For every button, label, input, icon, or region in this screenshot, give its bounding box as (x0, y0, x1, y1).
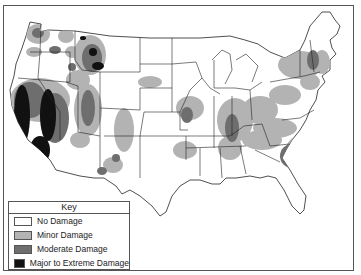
map-key: Key No Damage Minor Damage Moderate Dama… (8, 201, 130, 270)
moderate-damage-swatch (14, 245, 32, 254)
no-damage-swatch (14, 217, 32, 226)
key-item-moderate-damage: Moderate Damage (9, 242, 129, 256)
key-item-minor-damage: Minor Damage (9, 228, 129, 242)
key-label: Major to Extreme Damage (30, 258, 129, 268)
major-damage-swatch (14, 259, 25, 268)
key-item-no-damage: No Damage (9, 214, 129, 228)
key-label: Moderate Damage (37, 244, 107, 254)
key-item-major-damage: Major to Extreme Damage (9, 256, 129, 270)
key-label: Minor Damage (37, 230, 93, 240)
minor-damage-swatch (14, 231, 32, 240)
key-label: No Damage (37, 216, 82, 226)
key-title: Key (9, 202, 129, 214)
